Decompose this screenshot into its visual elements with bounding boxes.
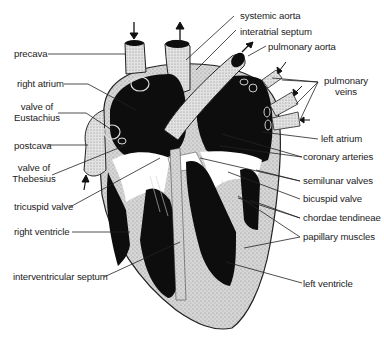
label-systemic-aorta: systemic aorta [240,10,300,21]
pulmonary-vein-in-arrow-2 [293,86,302,96]
label-left-ventricle: left ventricle [303,278,353,289]
label-interventricular-septum: interventricular septum [13,271,108,282]
label-right-ventricle: right ventricle [14,226,70,237]
label-precava: precava [14,48,47,59]
label-valve-of-thebesius-line2: Thebesius [12,173,56,184]
label-bicuspid-valve: bicuspid valve [303,193,362,204]
label-valve-of-eustachius-line1: valve of [14,101,60,112]
label-pulmonary-aorta: pulmonary aorta [268,41,336,52]
pulmonary-vein-in-arrow-1 [277,62,286,74]
label-valve-of-eustachius-line2: Eustachius [12,112,62,123]
label-chordae-tendineae: chordae tendineae [303,212,381,223]
label-tricuspid-valve: tricuspid valve [14,201,73,212]
precava-in-arrow [130,22,138,39]
label-valve-of-thebesius-line1: valve of [14,162,54,173]
label-coronary-arteries: coronary arteries [303,151,373,162]
label-pulmonary-veins-line2: veins [320,86,372,97]
label-papillary-muscles: papillary muscles [303,231,375,242]
postcava-in-arrow [82,175,89,190]
precava-vessel [125,40,146,74]
pulmonary-aorta-out-arrow [242,42,253,52]
label-postcava: postcava [14,140,52,151]
postcava-vessel [84,110,106,176]
label-interatrial-septum: interatrial septum [240,26,312,37]
label-semilunar-valves: semilunar valves [303,175,373,186]
aorta-out-arrow [176,22,184,40]
label-left-atrium: left atrium [321,133,362,144]
label-pulmonary-veins-line1: pulmonary [320,75,372,86]
pulmonary-vein-in-arrow-3 [300,117,310,123]
heart-diagram: precava right atrium valve of Eustachius… [0,0,384,338]
label-right-atrium: right atrium [17,78,64,89]
